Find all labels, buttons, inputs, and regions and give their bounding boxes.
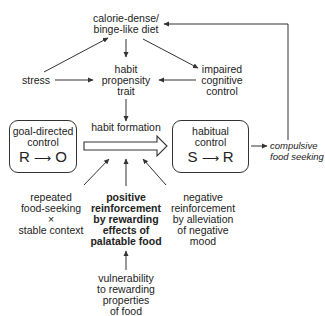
repeated-to-habit-arrow xyxy=(84,159,109,185)
positive-reinforcement-label: positive reinforcement by rewarding effe… xyxy=(88,192,164,247)
negative-to-habit-arrow xyxy=(143,159,166,185)
compulsive-food-seeking-label: compulsive food seeking xyxy=(270,141,325,162)
habit-formation-block-arrow xyxy=(84,136,167,156)
response-outcome-formula: R ⟶ O xyxy=(10,149,76,166)
diet-label: calorie-dense/ binge-like diet xyxy=(86,13,166,35)
repeated-food-seeking-label: repeated food-seeking × stable context xyxy=(18,192,84,236)
stress-label: stress xyxy=(18,75,54,86)
formula-arrow-icon: ⟶ xyxy=(202,151,219,165)
habit-formation-label: habit formation xyxy=(86,122,166,133)
goal-directed-control-box: goal-directed control R ⟶ O xyxy=(9,120,77,173)
impaired-cognitive-control-label: impaired cognitive control xyxy=(197,64,247,97)
stimulus-response-formula: S ⟶ R xyxy=(173,149,248,166)
habit-propensity-trait-label: habit propensity trait xyxy=(96,64,156,97)
vulnerability-label: vulnerability to rewarding properties of… xyxy=(91,273,161,316)
habitual-control-box: habitual control S ⟶ R xyxy=(172,120,249,173)
negative-reinforcement-label: negative reinforcement by alleviation of… xyxy=(168,192,238,247)
formula-arrow-icon: ⟶ xyxy=(34,151,51,165)
